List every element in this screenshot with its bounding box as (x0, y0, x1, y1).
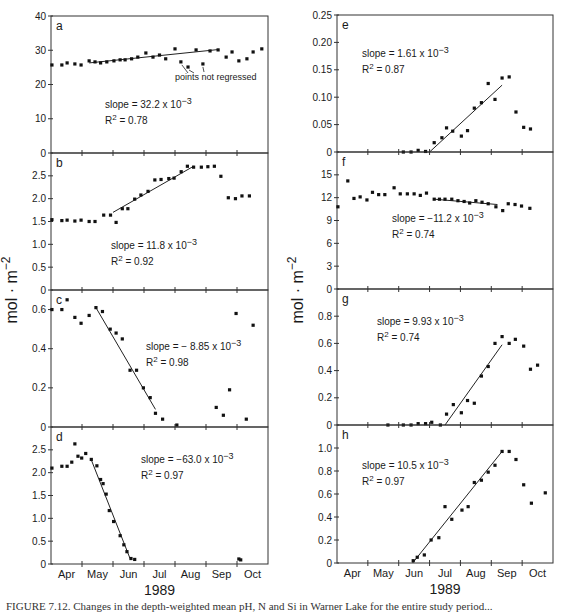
y-tick-label: 0.6 (32, 304, 46, 315)
slope-text: slope = −63.0 x 10−3 (141, 451, 234, 465)
data-point (522, 345, 525, 348)
y-tick-label: 1.0 (32, 239, 46, 250)
panel-frame (337, 425, 553, 563)
data-point (514, 458, 517, 461)
data-point (252, 50, 255, 53)
data-point (93, 60, 96, 63)
y-tick-label: 0 (326, 558, 332, 569)
data-point (460, 135, 463, 138)
data-point (112, 520, 115, 523)
data-point (514, 338, 517, 341)
y-tick-label: 0.6 (318, 338, 332, 349)
month-label-jun: Jun (405, 567, 423, 579)
data-point (500, 76, 503, 79)
data-point (66, 298, 69, 301)
data-point (522, 126, 525, 129)
panel-e: 00.050.100.150.200.25eslope = 1.61 x 10−… (313, 10, 553, 158)
data-point (239, 558, 242, 561)
y-tick-label: 0 (40, 559, 46, 570)
data-point (109, 328, 112, 331)
data-point (60, 63, 63, 66)
slope-text: slope = 1.61 x 10−3 (362, 45, 449, 59)
data-point (186, 165, 189, 168)
x-axis-year-label: 1989 (429, 581, 460, 597)
y-tick-label: 0.4 (32, 343, 46, 354)
data-point (139, 193, 142, 196)
data-point (423, 553, 426, 556)
data-point (460, 411, 463, 414)
data-point (129, 557, 132, 560)
slope-text: slope = 32.2 x 10−3 (105, 96, 192, 110)
y-tick-label: 2.0 (32, 193, 46, 204)
data-point (146, 190, 149, 193)
data-point (508, 75, 511, 78)
data-point (99, 478, 102, 481)
data-point (487, 471, 490, 474)
y-tick-label: 2.0 (32, 467, 46, 478)
data-point (121, 337, 124, 340)
data-point (487, 365, 490, 368)
y-tick-label: 0.8 (318, 466, 332, 477)
r-squared-text: R2 = 0.74 (392, 227, 435, 240)
data-point (70, 461, 73, 464)
regression-line (445, 345, 502, 425)
data-point (126, 207, 129, 210)
data-point (473, 481, 476, 484)
data-point (513, 203, 516, 206)
data-point (508, 450, 511, 453)
figure-caption: FIGURE 7.12. Changes in the depth-weight… (6, 600, 562, 612)
annotation-text: points not regressed (175, 72, 257, 82)
r-squared-text: R2 = 0.92 (111, 254, 154, 267)
data-point (487, 82, 490, 85)
data-point (494, 205, 497, 208)
data-point (443, 198, 446, 201)
panel-letter: a (56, 19, 63, 33)
data-point (463, 200, 466, 203)
data-point (125, 550, 128, 553)
data-point (167, 177, 170, 180)
data-point (108, 509, 111, 512)
data-point (237, 59, 240, 62)
y-tick-label: 0 (40, 285, 46, 296)
data-point (79, 322, 82, 325)
data-point (452, 403, 455, 406)
data-point (336, 205, 339, 208)
data-point (365, 198, 368, 201)
y-tick-label: 3 (326, 261, 332, 272)
y-axis-title: mol · m−2 (285, 256, 306, 323)
month-label-oct: Oct (529, 567, 546, 579)
data-point (500, 450, 503, 453)
panel-letter: h (342, 428, 349, 442)
data-point (501, 209, 504, 212)
data-point (460, 509, 463, 512)
y-tick-label: 1.5 (32, 216, 46, 227)
y-tick-label: 1.0 (318, 443, 332, 454)
data-point-not-regressed (201, 62, 204, 65)
slope-exponent: −3 (438, 457, 448, 467)
data-point (194, 48, 197, 51)
slope-exponent: −3 (181, 96, 191, 106)
data-point (252, 324, 255, 327)
data-point (73, 316, 76, 319)
data-point (225, 56, 228, 59)
month-label-apr: Apr (344, 567, 361, 579)
data-point (416, 556, 419, 559)
data-point (450, 198, 453, 201)
data-point (528, 207, 531, 210)
data-point (346, 179, 349, 182)
slope-exponent: −3 (474, 210, 484, 220)
y-tick-label: 20 (35, 79, 47, 90)
slope-exponent: −3 (187, 237, 197, 247)
data-point (215, 406, 218, 409)
y-tick-label: 2.5 (32, 170, 46, 181)
data-point (433, 141, 436, 144)
slope-exponent: −3 (453, 313, 463, 323)
month-label-may: May (87, 568, 108, 580)
data-point (208, 49, 211, 52)
data-point (88, 59, 91, 62)
data-point (520, 204, 523, 207)
month-label-oct: Oct (244, 568, 261, 580)
data-point (424, 150, 427, 153)
data-point (105, 60, 108, 63)
data-point (115, 331, 118, 334)
